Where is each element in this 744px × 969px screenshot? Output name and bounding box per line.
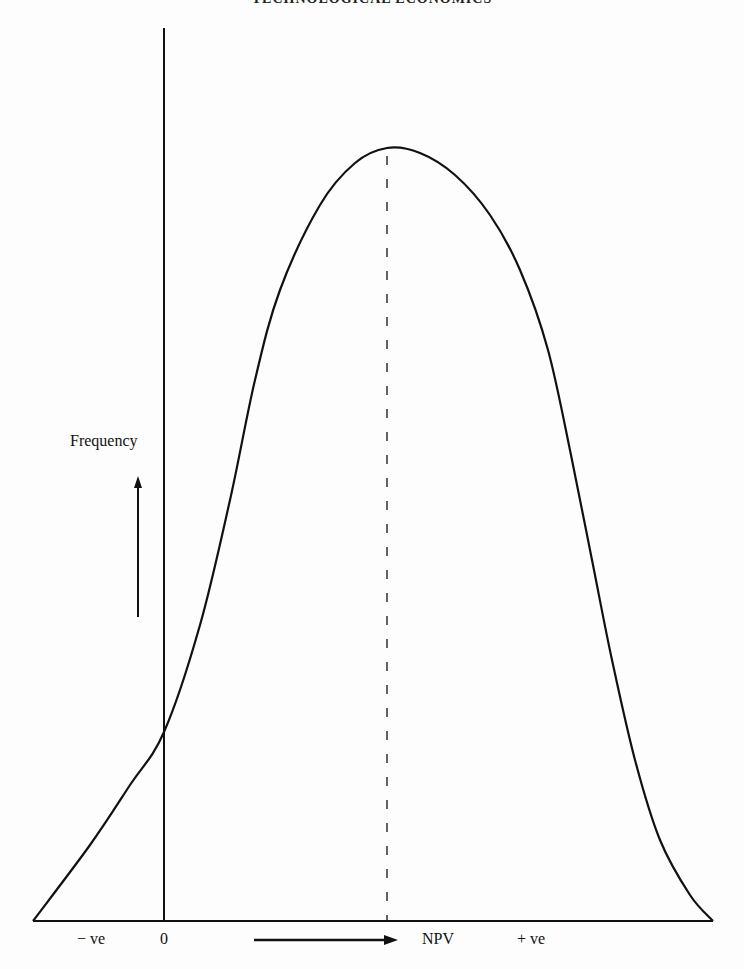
y-axis-label: Frequency xyxy=(70,432,138,450)
x-label-zero: 0 xyxy=(160,930,168,948)
right-arrow-icon xyxy=(254,935,398,945)
frequency-curve xyxy=(33,147,713,921)
x-label-negative: − ve xyxy=(77,930,105,948)
npv-distribution-chart xyxy=(0,0,744,969)
up-arrow-icon xyxy=(134,476,142,617)
x-label-positive: + ve xyxy=(517,930,545,948)
x-axis-label-npv: NPV xyxy=(422,930,454,948)
